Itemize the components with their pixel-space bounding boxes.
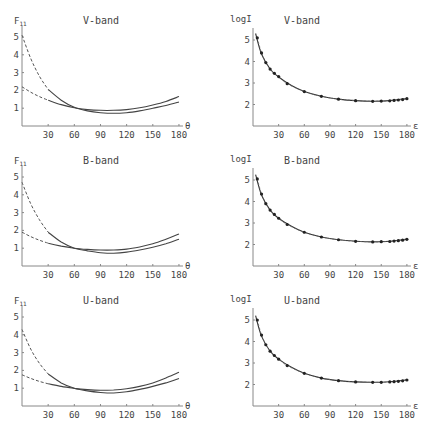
data-point [277,358,280,361]
observed-line [257,179,407,242]
series-line [48,90,179,114]
series-line [48,97,179,111]
y-tick-label: 5 [14,172,19,182]
data-point [303,372,306,375]
data-point [397,380,400,383]
x-axis-label: θ [185,121,190,131]
x-tick-label: 180 [171,410,187,420]
x-tick-label: 150 [373,130,389,140]
data-point [388,99,391,102]
series-line [48,372,179,390]
x-tick-label: 120 [347,130,363,140]
data-point [392,99,395,102]
observed-line [257,320,407,382]
logi-b-band-chart: 3060901201501802345logIεB-band [220,140,435,278]
x-axis-label: ε [413,121,418,131]
x-tick-label: 30 [273,270,284,280]
y-axis-label: F11 [14,16,27,27]
chart-title: U-band [83,295,119,306]
x-tick-label: 120 [347,410,363,420]
y-tick-label: 4 [14,50,19,60]
x-tick-label: 180 [399,270,415,280]
x-tick-label: 90 [95,130,106,140]
data-point [354,380,357,383]
y-tick-label: 2 [14,365,19,375]
series-line-dashed [22,330,48,375]
x-tick-label: 180 [399,130,415,140]
data-point [260,51,263,54]
x-tick-label: 60 [69,130,80,140]
x-tick-label: 180 [399,410,415,420]
data-point [337,238,340,241]
data-point [397,98,400,101]
x-tick-label: 30 [43,270,54,280]
y-axis-label: logI [230,14,252,24]
data-point [277,75,280,78]
f11-v-band-chart: 30609012015018012345F11θV-band [0,0,215,138]
data-point [405,97,408,100]
data-point [392,380,395,383]
series-line-dashed [22,182,48,232]
x-tick-label: 60 [299,270,310,280]
data-point [371,381,374,384]
x-tick-label: 90 [95,410,106,420]
chart-title: V-band [83,15,119,26]
series-line-dashed [22,375,48,384]
x-tick-label: 150 [145,270,161,280]
y-axis-label: F11 [14,156,27,167]
y-tick-label: 3 [245,218,250,228]
y-tick-label: 2 [14,225,19,235]
data-point [260,192,263,195]
y-axis-label: logI [230,154,252,164]
y-tick-label: 5 [245,35,250,45]
data-point [256,36,259,39]
series-line [48,234,179,250]
y-tick-label: 3 [245,358,250,368]
x-axis-label: θ [185,401,190,411]
y-tick-label: 4 [14,190,19,200]
x-tick-label: 150 [373,270,389,280]
data-point [354,240,357,243]
data-point [256,318,259,321]
data-point [337,98,340,101]
data-point [388,240,391,243]
y-tick-label: 1 [14,103,19,113]
logi-v-band-chart: 3060901201501802345logIεV-band [220,0,435,138]
x-tick-label: 150 [373,410,389,420]
x-tick-label: 180 [171,270,187,280]
data-point [371,240,374,243]
f11-u-band-chart: 30609012015018012345F11θU-band [0,280,215,418]
y-tick-label: 4 [245,337,250,347]
y-tick-label: 3 [14,208,19,218]
x-tick-label: 30 [273,130,284,140]
x-tick-label: 60 [69,410,80,420]
data-point [273,354,276,357]
data-point [380,99,383,102]
data-point [320,95,323,98]
data-point [286,82,289,85]
data-point [264,202,267,205]
fit-line [256,34,407,102]
y-tick-label: 4 [14,330,19,340]
data-point [260,333,263,336]
y-tick-label: 4 [245,197,250,207]
data-point [371,100,374,103]
data-point [380,381,383,384]
data-point [264,343,267,346]
data-point [286,364,289,367]
x-tick-label: 30 [43,130,54,140]
fit-line [256,175,407,242]
y-axis-label: logI [230,294,252,304]
x-tick-label: 30 [273,410,284,420]
x-tick-label: 90 [325,270,336,280]
observed-line [257,38,407,101]
y-tick-label: 3 [245,78,250,88]
y-tick-label: 2 [14,85,19,95]
y-tick-label: 2 [245,100,250,110]
data-point [401,98,404,101]
f11-b-band-chart: 30609012015018012345F11θB-band [0,140,215,278]
data-point [264,61,267,64]
data-point [354,99,357,102]
data-point [392,239,395,242]
y-tick-label: 2 [245,240,250,250]
